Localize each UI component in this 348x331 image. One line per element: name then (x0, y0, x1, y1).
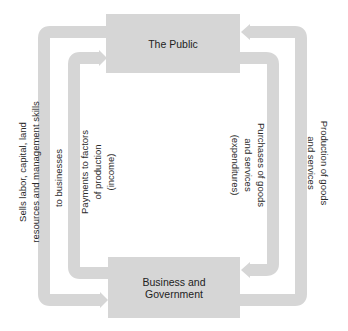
flow-label-line: of production (91, 130, 104, 214)
flow-label-outer-right: Production of goods and services (305, 121, 331, 206)
circular-flow-diagram: The Public Business and Government Sells… (0, 0, 348, 331)
flow-label-line: resources and management skills (29, 101, 42, 243)
flow-label-line: Production of goods (318, 121, 331, 206)
node-business-and-government: Business and Government (108, 257, 240, 318)
flow-label-inner-left: Payments to factors of production (incom… (78, 130, 117, 214)
flow-label-line: Sells labor, capital, land (16, 101, 29, 243)
flow-label-line: and services (305, 121, 318, 206)
flow-label-line: (income) (104, 130, 117, 214)
arrowhead-icon (100, 292, 108, 308)
flow-label-line: Payments to factors (78, 130, 91, 214)
flow-label-line: to businesses (52, 149, 65, 207)
arrowhead-icon (241, 262, 250, 278)
flow-label-outer-left: Sells labor, capital, land resources and… (16, 101, 42, 243)
flow-label-line: (expenditures) (229, 123, 242, 207)
flow-label-line: Purchases of goods (255, 123, 268, 207)
node-label-line1: Business and (142, 276, 205, 288)
flow-label-line: and services (242, 123, 255, 207)
flow-label-inner-right: Purchases of goods and services (expendi… (229, 123, 268, 207)
arrowhead-icon (241, 24, 250, 40)
node-label: The Public (148, 38, 198, 50)
flow-label-outer-left-tail: to businesses (52, 149, 65, 207)
node-label-line2: Government (145, 288, 203, 300)
node-the-public: The Public (106, 14, 240, 73)
